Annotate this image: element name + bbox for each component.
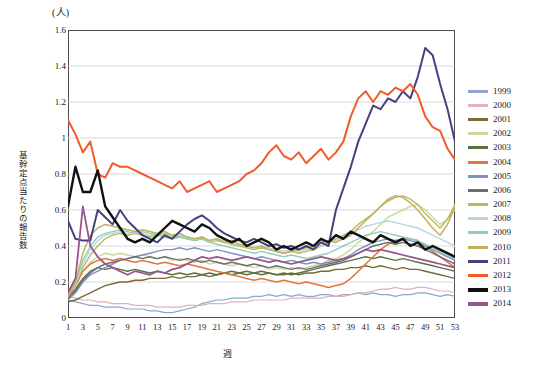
legend-label: 2002: [493, 129, 511, 138]
legend-item-2011[interactable]: 2011: [468, 254, 530, 268]
x-tick-label: 13: [153, 322, 162, 332]
legend-label: 2001: [493, 115, 511, 124]
legend-label: 2008: [493, 214, 511, 223]
x-tick-label: 1: [66, 322, 70, 332]
legend-item-2002[interactable]: 2002: [468, 127, 530, 141]
x-tick-label: 37: [332, 322, 341, 332]
x-tick-label: 15: [168, 322, 177, 332]
y-tick-label: 0.6: [40, 205, 66, 215]
legend-swatch-2007: [468, 203, 488, 206]
x-tick-label: 29: [272, 322, 281, 332]
legend-swatch-2008: [468, 217, 488, 220]
series-line-2003: [68, 257, 455, 297]
x-tick-label: 17: [183, 322, 192, 332]
x-tick-label: 47: [406, 322, 415, 332]
legend-label: 2014: [493, 299, 511, 308]
x-tick-label: 45: [391, 322, 400, 332]
legend-item-2004[interactable]: 2004: [468, 155, 530, 169]
y-tick-label: 1.6: [40, 25, 66, 35]
x-tick-label: 33: [302, 322, 311, 332]
x-tick-label: 41: [361, 322, 370, 332]
legend-label: 2000: [493, 101, 511, 110]
legend-label: 2010: [493, 243, 511, 252]
x-tick-label: 3: [81, 322, 85, 332]
legend-swatch-2013: [468, 288, 488, 292]
series-line-2000: [68, 287, 455, 307]
legend-swatch-2014: [468, 302, 488, 306]
legend-swatch-2010: [468, 246, 488, 249]
x-tick-label: 19: [198, 322, 207, 332]
legend-swatch-2002: [468, 132, 488, 135]
legend: 1999200020012002200320042005200620072008…: [468, 84, 530, 311]
legend-swatch-2012: [468, 274, 488, 278]
legend-swatch-2000: [468, 104, 488, 107]
y-tick-label: 1: [40, 133, 66, 143]
y-tick-label: 1.2: [40, 97, 66, 107]
x-axis-title: 週: [0, 347, 455, 360]
x-tick-label: 49: [421, 322, 430, 332]
x-tick-label: 51: [436, 322, 445, 332]
x-tick-label: 53: [451, 322, 460, 332]
x-tick-label: 35: [317, 322, 326, 332]
x-tick-label: 39: [347, 322, 356, 332]
y-tick-label: 1.4: [40, 61, 66, 71]
legend-item-2003[interactable]: 2003: [468, 141, 530, 155]
x-tick-label: 27: [257, 322, 266, 332]
x-tick-label: 11: [138, 322, 146, 332]
legend-item-2005[interactable]: 2005: [468, 169, 530, 183]
legend-item-1999[interactable]: 1999: [468, 84, 530, 98]
legend-label: 2006: [493, 186, 511, 195]
legend-item-2008[interactable]: 2008: [468, 212, 530, 226]
series-line-1999: [68, 293, 455, 313]
legend-item-2012[interactable]: 2012: [468, 268, 530, 282]
y-tick-label: 0.8: [40, 169, 66, 179]
legend-item-2013[interactable]: 2013: [468, 283, 530, 297]
legend-item-2006[interactable]: 2006: [468, 183, 530, 197]
legend-label: 2005: [493, 172, 511, 181]
legend-item-2010[interactable]: 2010: [468, 240, 530, 254]
plot-lines: [68, 30, 455, 318]
legend-label: 2003: [493, 143, 511, 152]
legend-label: 2011: [493, 257, 511, 266]
y-tick-label: 0.4: [40, 241, 66, 251]
x-tick-label: 21: [213, 322, 222, 332]
y-tick-label: 0.2: [40, 277, 66, 287]
series-line-2011: [68, 48, 455, 250]
legend-label: 2009: [493, 228, 511, 237]
x-tick-label: 7: [111, 322, 115, 332]
y-axis-tick-labels: 00.20.40.60.811.21.41.6: [36, 0, 66, 374]
x-tick-label: 43: [376, 322, 385, 332]
legend-label: 2004: [493, 158, 511, 167]
y-tick-label: 0: [40, 313, 66, 323]
legend-swatch-2003: [468, 146, 488, 149]
x-tick-label: 31: [287, 322, 296, 332]
chart-container: (人) 基幹定点当たりの報告数 00.20.40.60.811.21.41.6 …: [0, 0, 533, 374]
legend-swatch-2009: [468, 231, 488, 234]
legend-item-2001[interactable]: 2001: [468, 112, 530, 126]
x-tick-label: 9: [125, 322, 129, 332]
legend-swatch-2011: [468, 260, 488, 264]
x-tick-label: 5: [96, 322, 100, 332]
legend-swatch-2005: [468, 175, 488, 178]
y-axis-title: 基幹定点当たりの報告数: [14, 95, 28, 305]
legend-swatch-1999: [468, 90, 488, 93]
x-tick-label: 25: [242, 322, 251, 332]
x-tick-label: 23: [227, 322, 236, 332]
legend-item-2009[interactable]: 2009: [468, 226, 530, 240]
legend-item-2014[interactable]: 2014: [468, 297, 530, 311]
legend-swatch-2004: [468, 161, 488, 164]
legend-item-2007[interactable]: 2007: [468, 198, 530, 212]
legend-label: 2007: [493, 200, 511, 209]
legend-label: 1999: [493, 87, 511, 96]
legend-swatch-2001: [468, 118, 488, 121]
legend-swatch-2006: [468, 189, 488, 192]
legend-label: 2013: [493, 285, 511, 294]
legend-item-2000[interactable]: 2000: [468, 98, 530, 112]
legend-label: 2012: [493, 271, 511, 280]
